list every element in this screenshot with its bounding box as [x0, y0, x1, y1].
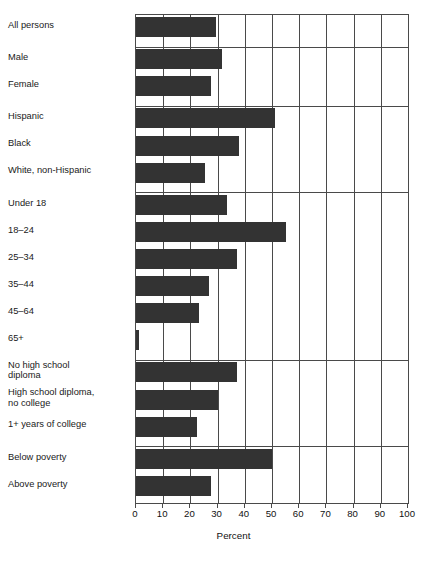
bar	[136, 76, 211, 96]
bar	[136, 330, 139, 350]
gridline-50	[272, 15, 273, 503]
category-label: 35–44	[8, 279, 132, 290]
category-label: Hispanic	[8, 111, 132, 122]
bar	[136, 108, 275, 128]
gridline-80	[354, 15, 355, 503]
x-tick-label: 0	[120, 508, 150, 520]
category-label: 18–24	[8, 225, 132, 236]
x-tick-label: 70	[310, 508, 340, 520]
category-label-column: All personsMaleFemaleHispanicBlackWhite,…	[0, 0, 132, 500]
group-separator-3	[136, 192, 408, 193]
category-label: 45–64	[8, 306, 132, 317]
x-tick-label: 30	[202, 508, 232, 520]
category-label: Female	[8, 79, 132, 90]
gridline-60	[299, 15, 300, 503]
bar	[136, 195, 227, 215]
x-tick-label: 10	[147, 508, 177, 520]
bar	[136, 163, 205, 183]
gridline-40	[245, 15, 246, 503]
category-label: All persons	[8, 20, 132, 31]
bar	[136, 362, 237, 382]
category-label: 25–34	[8, 252, 132, 263]
x-tick-label: 40	[229, 508, 259, 520]
bar	[136, 49, 222, 69]
group-separator-5	[136, 446, 408, 447]
bar	[136, 222, 286, 242]
category-label: High school diploma, no college	[8, 387, 132, 408]
category-label: Below poverty	[8, 452, 132, 463]
group-separator-2	[136, 106, 408, 107]
category-label: No high school diploma	[8, 360, 132, 381]
bar	[136, 303, 199, 323]
category-label: Black	[8, 138, 132, 149]
x-tick-label: 50	[256, 508, 286, 520]
bar	[136, 17, 216, 37]
bar	[136, 449, 272, 469]
bar	[136, 390, 218, 410]
x-axis-title-text: Percent	[217, 530, 251, 541]
category-label: 65+	[8, 333, 132, 344]
category-label: Male	[8, 52, 132, 63]
x-tick-label: 80	[338, 508, 368, 520]
bar	[136, 249, 237, 269]
gridline-90	[381, 15, 382, 503]
bar	[136, 417, 197, 437]
bar	[136, 136, 239, 156]
bar	[136, 476, 211, 496]
plot-area	[135, 14, 409, 504]
category-label: Under 18	[8, 198, 132, 209]
x-axis-tick-labels: 0102030405060708090100	[0, 508, 429, 524]
category-label: White, non-Hispanic	[8, 165, 132, 176]
x-tick-label: 100	[392, 508, 422, 520]
percent-uninsured-bar-chart: All personsMaleFemaleHispanicBlackWhite,…	[0, 0, 429, 562]
category-label: Above poverty	[8, 479, 132, 490]
x-tick-label: 20	[174, 508, 204, 520]
gridline-70	[326, 15, 327, 503]
x-tick-label: 90	[365, 508, 395, 520]
category-label: 1+ years of college	[8, 419, 132, 430]
group-separator-4	[136, 360, 408, 361]
group-separator-1	[136, 47, 408, 48]
x-tick-label: 60	[283, 508, 313, 520]
x-axis-title: Percent	[0, 530, 429, 541]
bar	[136, 276, 209, 296]
